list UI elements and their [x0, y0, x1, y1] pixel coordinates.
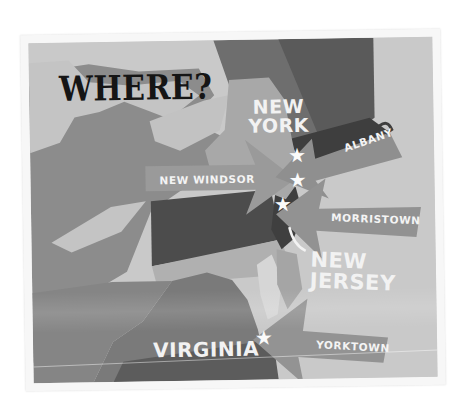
- city-label-new-windsor: NEW WINDSOR: [159, 173, 255, 186]
- state-label-new-york-line2: YORK: [244, 116, 314, 136]
- map-card: WHERE? NEW YORK NEW JERSEY VIRGINIA NEW …: [20, 29, 446, 392]
- star-icon: ★: [255, 327, 273, 347]
- state-label-new-jersey: NEW JERSEY: [309, 250, 436, 297]
- star-icon: ★: [288, 145, 306, 165]
- state-label-virginia: VIRGINIA: [153, 339, 259, 361]
- map-title: WHERE?: [59, 66, 213, 109]
- star-icon: ★: [288, 170, 306, 190]
- state-label-new-york: NEW YORK: [243, 97, 314, 136]
- map-illustration: WHERE? NEW YORK NEW JERSEY VIRGINIA NEW …: [28, 37, 437, 383]
- star-icon: ★: [274, 194, 292, 214]
